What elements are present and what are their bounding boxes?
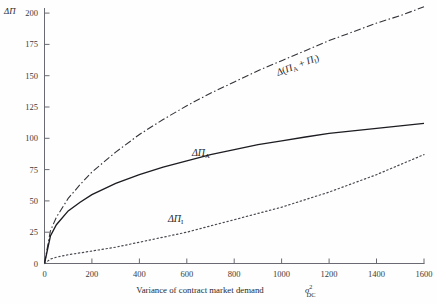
x-tick-label-600: 600 <box>180 269 193 279</box>
x-axis-title-text: Variance of contract market demand <box>136 285 264 295</box>
x-tick-label-0: 0 <box>42 269 46 279</box>
y-tick-label-100: 100 <box>25 133 38 143</box>
y-tick-label-25: 25 <box>30 227 39 237</box>
y-axis-title: ΔΠ <box>3 6 16 16</box>
curve-label-investor: ΔΠI <box>167 213 183 225</box>
x-tick-label-1400: 1400 <box>368 269 385 279</box>
x-tick-label-1000: 1000 <box>273 269 290 279</box>
delta-profit-line-chart: ΔΠ 0 25 50 75 100 125 150 175 200 <box>0 0 437 304</box>
y-tick-label-200: 200 <box>25 8 38 18</box>
x-tick-label-1200: 1200 <box>321 269 338 279</box>
x-tick-label-400: 400 <box>133 269 146 279</box>
y-tick-label-0: 0 <box>34 259 38 269</box>
x-tick-label-800: 800 <box>228 269 241 279</box>
y-tick-label-125: 125 <box>25 102 38 112</box>
x-tick-label-1600: 1600 <box>416 269 433 279</box>
y-tick-label-75: 75 <box>30 165 39 175</box>
y-tick-label-175: 175 <box>25 39 38 49</box>
chart-container: ΔΠ 0 25 50 75 100 125 150 175 200 <box>0 0 437 304</box>
chart-background <box>0 0 437 304</box>
x-tick-label-200: 200 <box>86 269 99 279</box>
y-tick-label-150: 150 <box>25 71 38 81</box>
y-tick-label-50: 50 <box>30 196 39 206</box>
